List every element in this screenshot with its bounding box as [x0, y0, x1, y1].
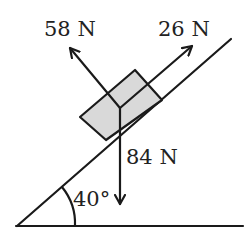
incline-line: [17, 39, 231, 226]
slope-force-label: 26 N: [158, 17, 210, 41]
incline-diagram: 58 N 26 N 84 N 40°: [0, 0, 250, 238]
angle-label: 40°: [73, 187, 110, 211]
normal-force-label: 58 N: [44, 17, 96, 41]
normal-force-arrow: [70, 48, 120, 108]
weight-force-label: 84 N: [126, 145, 178, 169]
